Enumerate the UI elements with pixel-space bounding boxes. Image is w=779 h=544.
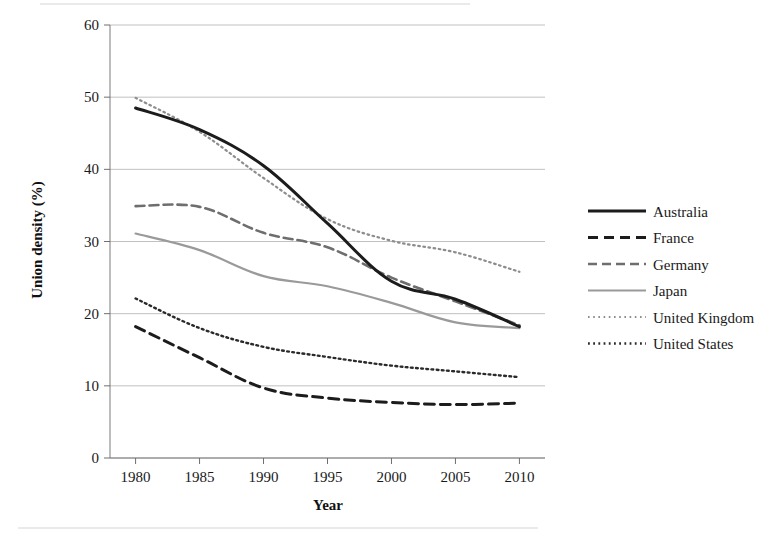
line-chart: 0102030405060 19801985199019952000200520… xyxy=(0,0,779,544)
y-tick-label-10: 10 xyxy=(84,378,99,394)
x-tick-label-1985: 1985 xyxy=(185,469,215,485)
legend-label-united-kingdom: United Kingdom xyxy=(653,310,755,326)
legend-label-germany: Germany xyxy=(653,257,709,273)
x-tick-label-1990: 1990 xyxy=(249,469,279,485)
x-tick-label-2000: 2000 xyxy=(376,469,406,485)
legend-label-japan: Japan xyxy=(653,283,688,299)
x-tick-label-2005: 2005 xyxy=(440,469,470,485)
y-tick-label-0: 0 xyxy=(92,450,100,466)
x-tick-label-2010: 2010 xyxy=(504,469,534,485)
x-tick-label-1995: 1995 xyxy=(313,469,343,485)
x-axis-title: Year xyxy=(313,497,343,513)
y-tick-label-20: 20 xyxy=(84,306,99,322)
y-axis-title: Union density (%) xyxy=(29,181,46,299)
x-tick-label-1980: 1980 xyxy=(121,469,151,485)
y-tick-label-30: 30 xyxy=(84,234,99,250)
legend-label-united-states: United States xyxy=(653,336,734,352)
legend-label-france: France xyxy=(653,230,694,246)
y-tick-label-50: 50 xyxy=(84,89,99,105)
y-tick-label-60: 60 xyxy=(84,17,99,33)
y-tick-label-40: 40 xyxy=(84,161,99,177)
figure-root: 0102030405060 19801985199019952000200520… xyxy=(0,0,779,544)
legend-label-australia: Australia xyxy=(653,204,708,220)
